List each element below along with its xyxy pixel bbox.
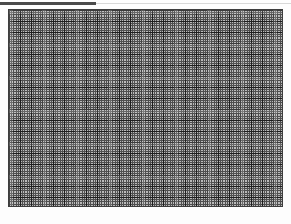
graph-paper-panel [8, 9, 283, 207]
bottom-margin-strip [0, 207, 291, 224]
grid-major-lines [9, 10, 282, 206]
top-divider-rule-faint [96, 3, 291, 4]
grid-canvas [0, 0, 291, 224]
top-divider-rule [0, 2, 96, 5]
